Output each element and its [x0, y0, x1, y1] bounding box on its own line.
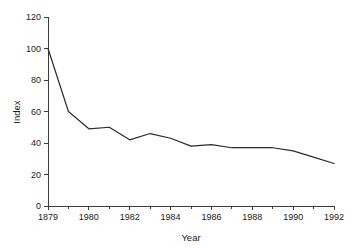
y-tick-label: 20 [31, 170, 41, 180]
y-tick-label: 120 [26, 12, 41, 22]
y-tick-label: 60 [31, 107, 41, 117]
x-tick-label: 1990 [283, 212, 303, 222]
y-tick-label: 0 [36, 201, 41, 211]
y-tick-label: 100 [26, 44, 41, 54]
y-tick-label: 40 [31, 138, 41, 148]
x-axis-title: Year [181, 232, 200, 243]
x-tick-label: 1988 [242, 212, 262, 222]
x-tick-label: 1982 [120, 212, 140, 222]
x-tick-label: 1879 [38, 212, 58, 222]
y-axis-title: Index [11, 100, 22, 123]
x-axis-ticks: 18791980198219841986198819901992 [38, 206, 344, 222]
x-tick-label: 1992 [324, 212, 344, 222]
y-axis-ticks: 020406080100120 [26, 12, 48, 211]
x-tick-label: 1986 [201, 212, 221, 222]
line-chart: 020406080100120 187919801982198419861988… [0, 0, 361, 248]
series-group [48, 49, 334, 164]
x-tick-label: 1980 [79, 212, 99, 222]
chart-container: 020406080100120 187919801982198419861988… [0, 0, 361, 248]
data-series-line [48, 49, 334, 164]
y-tick-label: 80 [31, 75, 41, 85]
x-tick-label: 1984 [161, 212, 181, 222]
